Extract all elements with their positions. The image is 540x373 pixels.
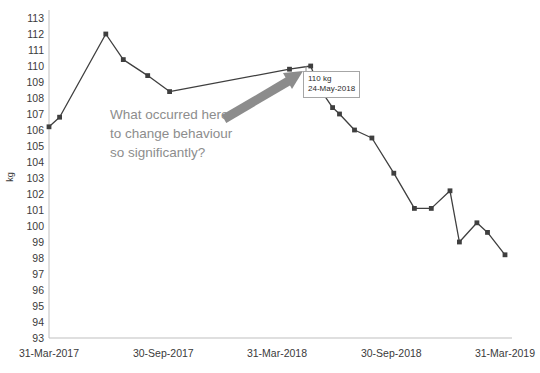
data-point-marker [429, 206, 434, 211]
data-point-marker [287, 67, 292, 72]
data-point-marker [503, 252, 508, 257]
data-point-marker [57, 115, 62, 120]
annotation-arrow [224, 71, 303, 119]
data-point-marker [330, 105, 335, 110]
data-point-marker [167, 89, 172, 94]
data-point-marker [352, 128, 357, 133]
data-point-marker [337, 112, 342, 117]
data-point-marker [457, 240, 462, 245]
data-point-marker [308, 64, 313, 69]
axis-lines [49, 10, 512, 338]
annotation-question: What occurred hereto change behaviourso … [110, 105, 232, 162]
arrow-shaft [224, 79, 292, 119]
data-point-marker [145, 73, 150, 78]
data-point-marker [121, 57, 126, 62]
callout-value: 110 kg [308, 74, 355, 84]
data-point-marker [448, 188, 453, 193]
annotation-line: What occurred here [110, 105, 232, 124]
data-point-marker [370, 136, 375, 141]
data-point-marker [47, 124, 52, 129]
data-point-marker [412, 206, 417, 211]
data-point-callout: 110 kg 24-May-2018 [303, 71, 360, 98]
data-point-marker [391, 171, 396, 176]
annotation-line: so significantly? [110, 143, 232, 162]
data-point-marker [485, 230, 490, 235]
data-point-marker [475, 220, 480, 225]
annotation-line: to change behaviour [110, 124, 232, 143]
callout-date: 24-May-2018 [308, 84, 355, 94]
data-point-marker [103, 32, 108, 37]
